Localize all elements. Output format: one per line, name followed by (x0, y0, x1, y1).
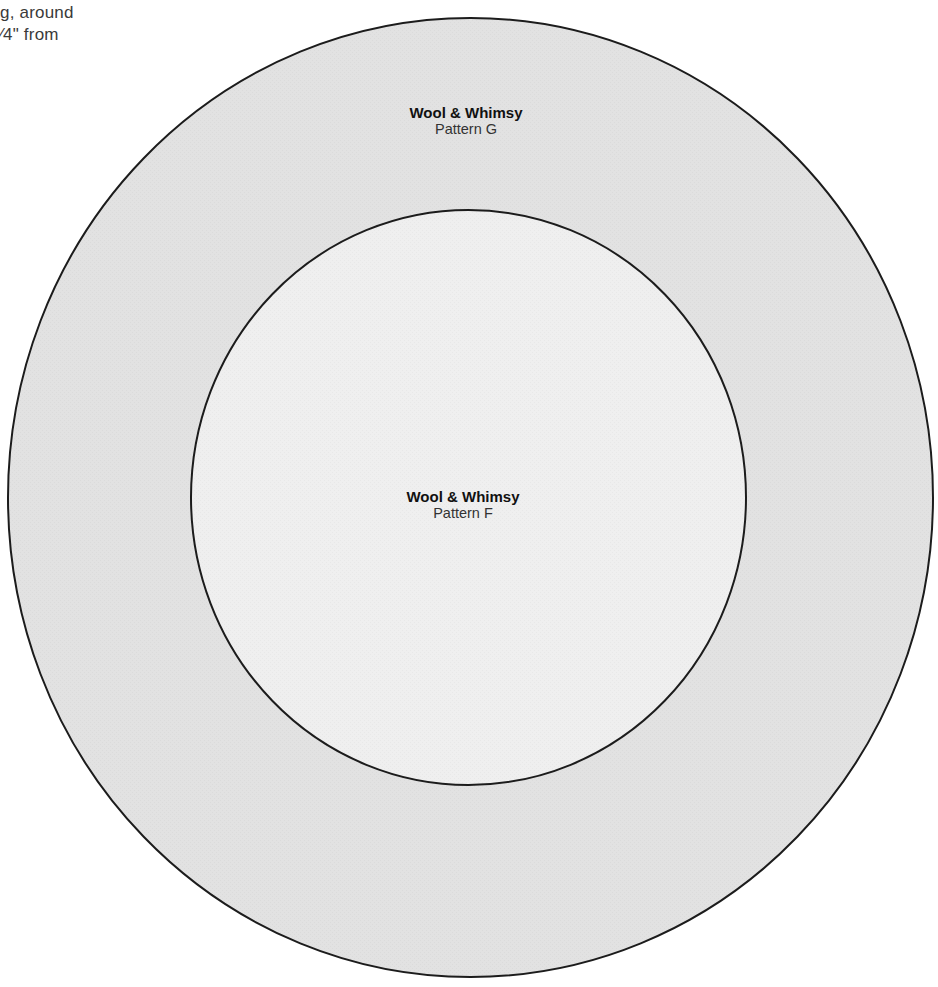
inner-brand-name: Wool & Whimsy (406, 488, 519, 505)
outer-brand-name: Wool & Whimsy (409, 104, 522, 121)
inner-circle-label: Wool & Whimsy Pattern F (406, 488, 519, 521)
outer-circle-label: Wool & Whimsy Pattern G (409, 104, 522, 137)
inner-pattern-name: Pattern F (406, 505, 519, 521)
outer-pattern-name: Pattern G (409, 121, 522, 137)
